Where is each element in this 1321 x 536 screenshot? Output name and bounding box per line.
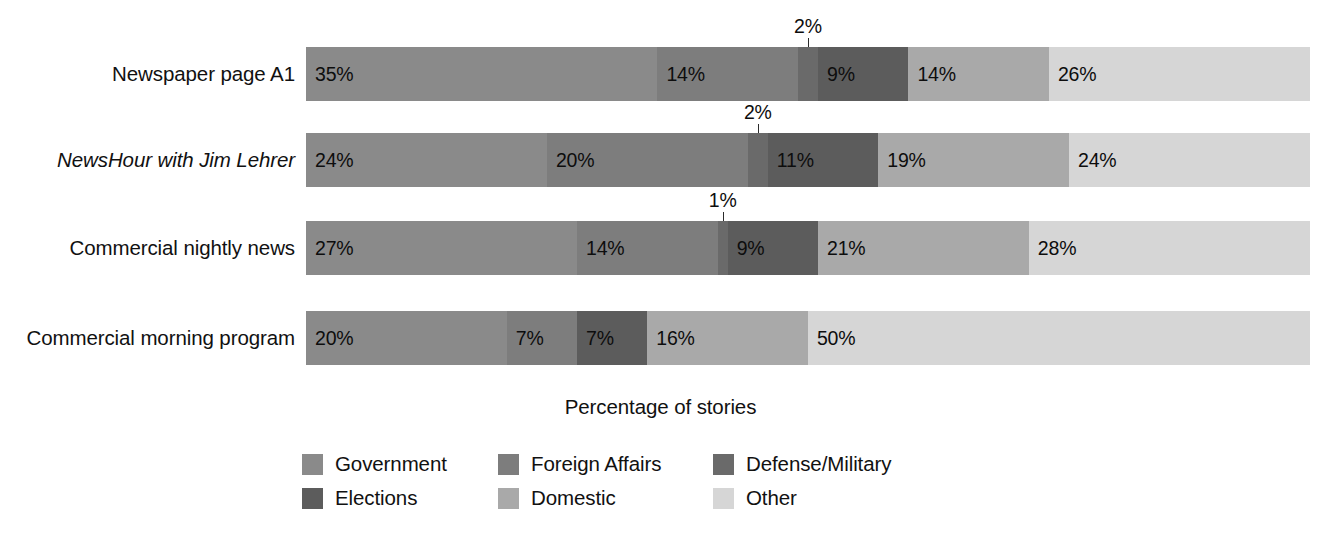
- bar-segment: 28%: [1029, 221, 1310, 275]
- bar-segment: 19%: [878, 133, 1069, 187]
- bar-segment: 20%: [306, 311, 507, 365]
- segment-value-label: 9%: [737, 237, 765, 260]
- legend-label: Government: [335, 452, 447, 476]
- category-label: NewsHour with Jim Lehrer: [57, 133, 295, 187]
- legend-item[interactable]: Defense/Military: [713, 447, 1202, 481]
- bar-segment: 16%: [647, 311, 808, 365]
- segment-value-label: 19%: [887, 149, 925, 172]
- bar-row: Commercial morning program20%7%7%16%50%: [0, 311, 1321, 365]
- bar-segment: 50%: [808, 311, 1310, 365]
- bar-row: Commercial nightly news1%27%14%9%21%28%: [0, 221, 1321, 275]
- legend-item[interactable]: Foreign Affairs: [498, 447, 713, 481]
- bar-segment: 14%: [908, 47, 1049, 101]
- legend-item[interactable]: Elections: [302, 481, 498, 515]
- legend-item[interactable]: Other: [713, 481, 1202, 515]
- legend-item[interactable]: Domestic: [498, 481, 713, 515]
- bar-segment: 14%: [577, 221, 718, 275]
- segment-value-label: 20%: [315, 327, 353, 350]
- segment-value-label: 35%: [315, 63, 353, 86]
- bar-track: 35%14%9%14%26%: [306, 47, 1310, 101]
- bar-segment: 11%: [768, 133, 878, 187]
- legend-label: Elections: [335, 486, 417, 510]
- callout-value-label: 2%: [794, 15, 822, 38]
- legend-item[interactable]: Government: [302, 447, 498, 481]
- legend-label: Other: [746, 486, 797, 510]
- segment-value-label: 7%: [516, 327, 544, 350]
- segment-value-label: 16%: [656, 327, 694, 350]
- segment-value-label: 26%: [1058, 63, 1096, 86]
- segment-value-label: 24%: [315, 149, 353, 172]
- legend-swatch-icon: [498, 488, 519, 509]
- segment-value-label: 20%: [556, 149, 594, 172]
- bar-segment: [748, 133, 768, 187]
- segment-value-label: 27%: [315, 237, 353, 260]
- bar-segment: [798, 47, 818, 101]
- bar-track: 24%20%11%19%24%: [306, 133, 1310, 187]
- segment-value-label: 14%: [917, 63, 955, 86]
- callout-value-label: 2%: [744, 101, 772, 124]
- bar-segment: 24%: [306, 133, 547, 187]
- bar-segment: 27%: [306, 221, 577, 275]
- category-label: Commercial morning program: [26, 311, 295, 365]
- bar-segment: 7%: [507, 311, 577, 365]
- segment-value-label: 11%: [777, 149, 814, 172]
- segment-value-label: 28%: [1038, 237, 1076, 260]
- plot-area: Newspaper page A12%35%14%9%14%26%NewsHou…: [0, 0, 1321, 385]
- bar-row: NewsHour with Jim Lehrer2%24%20%11%19%24…: [0, 133, 1321, 187]
- segment-value-label: 14%: [666, 63, 704, 86]
- legend-label: Domestic: [531, 486, 616, 510]
- x-axis-label: Percentage of stories: [0, 395, 1321, 419]
- legend-swatch-icon: [713, 454, 734, 475]
- legend-swatch-icon: [302, 454, 323, 475]
- chart-legend: GovernmentForeign AffairsDefense/Militar…: [302, 447, 1202, 515]
- bar-segment: 21%: [818, 221, 1029, 275]
- legend-label: Foreign Affairs: [531, 452, 661, 476]
- bar-segment: 35%: [306, 47, 657, 101]
- bar-segment: [718, 221, 728, 275]
- legend-label: Defense/Military: [746, 452, 891, 476]
- segment-value-label: 7%: [586, 327, 614, 350]
- legend-swatch-icon: [498, 454, 519, 475]
- bar-segment: 9%: [818, 47, 908, 101]
- legend-swatch-icon: [302, 488, 323, 509]
- bar-segment: 20%: [547, 133, 748, 187]
- bar-segment: 24%: [1069, 133, 1310, 187]
- segment-value-label: 24%: [1078, 149, 1116, 172]
- bar-segment: 9%: [728, 221, 818, 275]
- category-label: Commercial nightly news: [69, 221, 295, 275]
- legend-swatch-icon: [713, 488, 734, 509]
- stacked-bar-chart: Newspaper page A12%35%14%9%14%26%NewsHou…: [0, 0, 1321, 536]
- callout-value-label: 1%: [709, 189, 737, 212]
- bar-row: Newspaper page A12%35%14%9%14%26%: [0, 47, 1321, 101]
- bar-segment: 7%: [577, 311, 647, 365]
- segment-value-label: 21%: [827, 237, 865, 260]
- segment-value-label: 50%: [817, 327, 855, 350]
- bar-segment: 14%: [657, 47, 798, 101]
- category-label: Newspaper page A1: [112, 47, 295, 101]
- bar-track: 20%7%7%16%50%: [306, 311, 1310, 365]
- segment-value-label: 9%: [827, 63, 855, 86]
- segment-value-label: 14%: [586, 237, 624, 260]
- bar-segment: 26%: [1049, 47, 1310, 101]
- bar-track: 27%14%9%21%28%: [306, 221, 1310, 275]
